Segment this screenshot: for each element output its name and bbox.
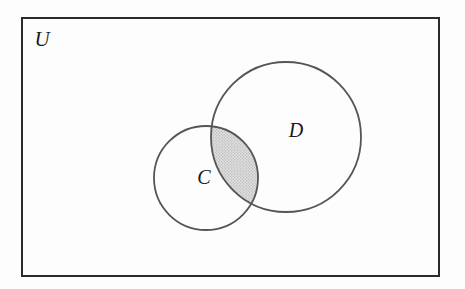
venn-diagram-canvas: U C D [0,0,465,289]
venn-diagram-svg: U C D [0,0,465,289]
universal-set-label: U [34,27,51,51]
set-c-label: C [197,166,211,188]
set-d-label: D [288,119,304,141]
